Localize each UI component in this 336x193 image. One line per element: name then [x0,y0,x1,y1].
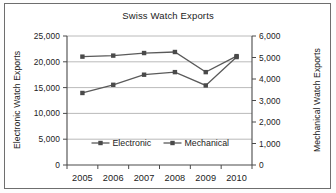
y-tick-label-right: 3,000 [259,96,281,106]
data-point-mechanical [173,70,177,74]
y-tick-label-right: 4,000 [259,74,281,84]
y-tick-label-left: 10,000 [34,108,60,118]
y-tick-label-right: 2,000 [259,117,281,127]
data-point-mechanical [111,83,115,87]
data-point-mechanical [80,91,84,95]
data-point-electronic [111,53,115,57]
y-tick-label-right: 5,000 [259,53,281,63]
plot-area: 05,00010,00015,00020,00025,00001,0002,00… [0,0,336,193]
y-tick-label-right: 1,000 [259,139,281,149]
legend-marker-mechanical [170,141,174,145]
x-tick-label: 2006 [103,173,124,183]
x-tick-label: 2008 [164,173,185,183]
x-tick-label: 2010 [226,173,247,183]
legend-marker-electronic [98,141,102,145]
data-point-mechanical [142,73,146,77]
data-point-mechanical [204,83,208,87]
legend-label-mechanical: Mechanical [185,138,230,148]
data-point-electronic [204,70,208,74]
data-point-mechanical [234,55,238,59]
y-tick-label-left: 20,000 [34,57,60,67]
y-tick-label-left: 25,000 [34,31,60,41]
y-tick-label-right: 0 [259,160,264,170]
legend-label-electronic: Electronic [113,138,152,148]
y-tick-label-left: 0 [55,160,60,170]
x-tick-label: 2005 [72,173,93,183]
y-tick-label-right: 6,000 [259,31,281,41]
x-tick-label: 2009 [195,173,216,183]
data-point-electronic [142,51,146,55]
x-tick-label: 2007 [134,173,155,183]
data-point-electronic [80,54,84,58]
chart-figure: Swiss Watch Exports Electronic Watch Exp… [0,0,336,193]
y-tick-label-left: 15,000 [34,83,60,93]
y-tick-label-left: 5,000 [39,134,61,144]
data-point-electronic [173,50,177,54]
